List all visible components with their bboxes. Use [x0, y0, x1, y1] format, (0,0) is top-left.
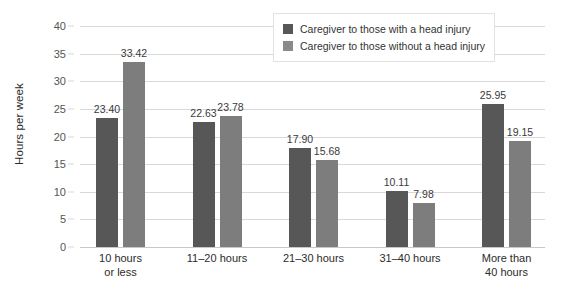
x-axis-tick-label: 31–40 hours: [355, 252, 465, 266]
y-axis-tick-mark: [68, 247, 74, 248]
chart-legend: Caregiver to those with a head injury Ca…: [273, 13, 495, 62]
bar: [289, 148, 311, 247]
legend-item: Caregiver to those without a head injury: [283, 38, 486, 54]
gridline: [80, 81, 545, 82]
y-axis-tick-label: 25: [54, 103, 66, 115]
bar: [220, 116, 242, 247]
bar-value-label: 7.98: [403, 188, 445, 200]
bar-value-label: 23.40: [86, 103, 128, 115]
y-axis-tick-mark: [68, 164, 74, 165]
gridline: [80, 247, 545, 248]
y-axis-tick-labels: 0510152025303540: [0, 26, 74, 247]
y-axis-tick-mark: [68, 191, 74, 192]
x-axis-tick-label: 11–20 hours: [162, 252, 272, 266]
y-axis-tick-label: 15: [54, 158, 66, 170]
y-axis-tick-label: 10: [54, 186, 66, 198]
legend-item-label: Caregiver to those without a head injury: [300, 40, 485, 52]
bar-chart: Hours per week 0510152025303540 23.4033.…: [0, 0, 574, 293]
bar: [96, 118, 118, 247]
y-axis-tick-mark: [68, 53, 74, 54]
gridline: [80, 109, 545, 110]
y-axis-tick-label: 35: [54, 48, 66, 60]
y-axis-tick-mark: [68, 26, 74, 27]
x-axis-tick-label-line: or less: [66, 266, 176, 280]
x-axis-tick-label: 21–30 hours: [259, 252, 369, 266]
y-axis-tick-label: 40: [54, 20, 66, 32]
bar-value-label: 25.95: [472, 89, 514, 101]
x-axis-tick-label-line: 40 hours: [452, 266, 562, 280]
gridline: [80, 192, 545, 193]
y-axis-tick-mark: [68, 136, 74, 137]
bar: [482, 104, 504, 247]
bar: [316, 160, 338, 247]
gridline: [80, 164, 545, 165]
x-axis-tick-label-line: 21–30 hours: [259, 252, 369, 266]
y-axis-tick-label: 20: [54, 131, 66, 143]
legend-swatch-icon: [283, 24, 293, 34]
x-axis-tick-label: More than40 hours: [452, 252, 562, 279]
bar: [509, 141, 531, 247]
x-axis-tick-label-line: 11–20 hours: [162, 252, 272, 266]
bar: [413, 203, 435, 247]
legend-item-label: Caregiver to those with a head injury: [300, 23, 470, 35]
x-axis-tick-label-line: 10 hours: [66, 252, 176, 266]
x-axis-tick-label: 10 hoursor less: [66, 252, 176, 279]
y-axis-tick-mark: [68, 219, 74, 220]
y-axis-tick-label: 30: [54, 75, 66, 87]
legend-item: Caregiver to those with a head injury: [283, 21, 486, 37]
bar-value-label: 33.42: [113, 47, 155, 59]
bar-value-label: 17.90: [279, 133, 321, 145]
bar: [123, 62, 145, 247]
bar: [193, 122, 215, 247]
bar-value-label: 23.78: [210, 101, 252, 113]
y-axis-tick-label: 5: [60, 213, 66, 225]
x-axis-tick-labels: 10 hoursor less11–20 hours21–30 hours31–…: [80, 252, 545, 292]
y-axis-tick-mark: [68, 108, 74, 109]
bar-value-label: 15.68: [306, 145, 348, 157]
y-axis-tick-mark: [68, 81, 74, 82]
bar-value-label: 10.11: [376, 176, 418, 188]
x-axis-tick-label-line: More than: [452, 252, 562, 266]
gridline: [80, 219, 545, 220]
legend-swatch-icon: [283, 41, 293, 51]
bar-value-label: 19.15: [499, 126, 541, 138]
x-axis-tick-label-line: 31–40 hours: [355, 252, 465, 266]
